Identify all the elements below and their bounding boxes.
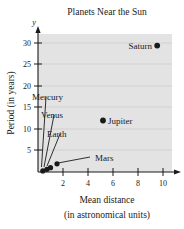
plot-area-background — [38, 34, 172, 172]
x-tick-label-8: 8 — [136, 179, 140, 188]
x-tick-label-6: 6 — [111, 179, 115, 188]
point-label-earth: Earth — [47, 129, 67, 139]
x-axis-title-line1: Mean distance — [79, 195, 134, 205]
y-tick-label-30: 30 — [23, 39, 31, 48]
x-tick-label-4: 4 — [86, 179, 90, 188]
x-tick-label-10: 10 — [159, 179, 167, 188]
chart-title: Planets Near the Sun — [67, 7, 147, 17]
y-tick-label-10: 10 — [23, 125, 31, 134]
data-point-mars — [54, 161, 59, 166]
y-axis-variable-label: y — [31, 18, 36, 27]
y-tick-label-20: 20 — [23, 82, 31, 91]
data-point-earth — [48, 165, 53, 170]
point-label-mars: Mars — [95, 153, 114, 163]
data-point-jupiter — [100, 118, 106, 124]
y-tick-label-25: 25 — [23, 60, 31, 69]
point-label-mercury: Mercury — [32, 92, 63, 102]
x-tick-label-2: 2 — [61, 179, 65, 188]
y-tick-label-5: 5 — [27, 146, 31, 155]
y-tick-label-15: 15 — [23, 103, 31, 112]
point-label-saturn: Saturn — [129, 41, 153, 51]
chart-figure: Planets Near the Sun y 30 25 20 15 — [0, 0, 184, 229]
planets-scatter-chart: Planets Near the Sun y 30 25 20 15 — [0, 0, 184, 229]
x-axis-title-line2: (in astronomical units) — [64, 210, 150, 221]
y-axis-title: Period (in years) — [6, 71, 17, 134]
data-point-saturn — [154, 43, 160, 49]
point-label-venus: Venus — [41, 110, 63, 120]
point-label-jupiter: Jupiter — [108, 116, 133, 126]
